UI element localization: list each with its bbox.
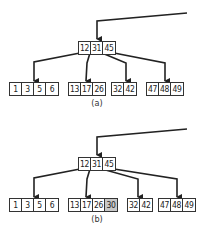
key-cell: 1: [10, 199, 22, 211]
key-cell: 17: [81, 83, 93, 95]
key-cell: 5: [34, 83, 46, 95]
key-cell: 6: [46, 83, 58, 95]
key-cell: 42: [140, 199, 152, 211]
key-cell: 45: [103, 158, 115, 170]
root-node: 12 31 45: [78, 157, 116, 171]
key-cell: 32: [112, 83, 124, 95]
key-cell: 26: [93, 83, 105, 95]
key-cell: 49: [183, 199, 195, 211]
key-cell: 3: [22, 199, 34, 211]
key-cell: 5: [34, 199, 46, 211]
leaf-node-1: 1 3 5 6: [9, 198, 59, 212]
diagram-a: 12 31 45 1 3 5 6 13 17 26 32 42 47 48 49…: [0, 0, 203, 117]
key-cell: 26: [93, 199, 105, 211]
leaf-node-1: 1 3 5 6: [9, 82, 59, 96]
key-cell: 48: [171, 199, 183, 211]
key-cell: 3: [22, 83, 34, 95]
key-cell: 13: [69, 83, 81, 95]
leaf-node-4: 47 48 49: [158, 198, 196, 212]
key-cell: 42: [124, 83, 136, 95]
key-cell: 32: [128, 199, 140, 211]
key-cell: 6: [46, 199, 58, 211]
key-cell: 47: [147, 83, 159, 95]
root-node: 12 31 45: [78, 41, 116, 55]
key-cell: 31: [91, 42, 103, 54]
key-cell: 13: [69, 199, 81, 211]
key-cell: 1: [10, 83, 22, 95]
key-cell: 48: [159, 83, 171, 95]
leaf-node-3: 32 42: [127, 198, 153, 212]
diagram-b: 12 31 45 1 3 5 6 13 17 26 30 32 42 47 48…: [0, 116, 203, 233]
key-cell: 12: [79, 158, 91, 170]
leaf-node-4: 47 48 49: [146, 82, 184, 96]
leaf-node-3: 32 42: [111, 82, 137, 96]
leaf-node-2: 13 17 26: [68, 82, 106, 96]
leaf-node-2: 13 17 26 30: [68, 198, 118, 212]
key-cell: 45: [103, 42, 115, 54]
caption-a: (a): [82, 98, 112, 108]
key-cell: 47: [159, 199, 171, 211]
caption-b: (b): [82, 214, 112, 224]
key-cell: 12: [79, 42, 91, 54]
key-cell: 49: [171, 83, 183, 95]
inserted-key-cell: 30: [105, 199, 117, 211]
key-cell: 31: [91, 158, 103, 170]
key-cell: 17: [81, 199, 93, 211]
